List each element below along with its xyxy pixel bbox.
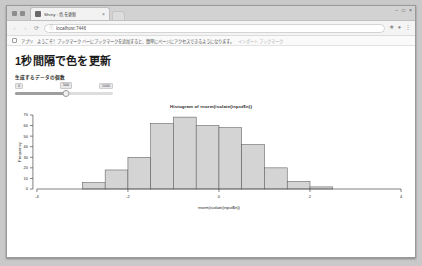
y-tick-label: 0 xyxy=(26,186,29,191)
plot-canvas: -4-2024010203040506070rnorm(isolate(inpu… xyxy=(15,111,407,211)
histogram-bar xyxy=(242,145,265,189)
histogram-bar xyxy=(219,128,242,189)
histogram-bar xyxy=(151,123,174,189)
x-tick-label: 0 xyxy=(218,194,221,199)
page-favicon-icon xyxy=(35,11,41,17)
url-text: localhost:7446 xyxy=(56,26,86,31)
forward-icon[interactable]: › xyxy=(22,25,29,32)
close-window-button[interactable]: × xyxy=(409,8,412,13)
x-tick-label: -4 xyxy=(35,194,39,199)
maximize-button[interactable]: □ xyxy=(402,8,405,13)
slider-value-bubble: 500 xyxy=(60,82,72,89)
x-tick-label: -2 xyxy=(126,194,130,199)
bookmarks-bar: アプリ ようこそ！ブックマーク バーにブックマークを追加すると、簡単にページにア… xyxy=(7,36,415,46)
page-viewport: 1秒間隔で色を更新 生成するデータの個数 0 1000 500 Histogra… xyxy=(7,46,415,257)
plot-title: Histogram of rnorm(isolate(input$n)) xyxy=(15,104,407,109)
y-tick-label: 20 xyxy=(24,165,29,170)
y-axis-title: Frequency xyxy=(17,141,22,162)
address-bar[interactable]: ⓘ localhost:7446 xyxy=(44,24,385,33)
y-tick-label: 50 xyxy=(24,134,29,139)
bookmark-import-link[interactable]: インポート ブックマーク xyxy=(238,38,283,44)
slider-label: 生成するデータの個数 xyxy=(15,74,407,80)
bookmark-apps-label[interactable]: アプリ xyxy=(21,38,33,44)
data-count-slider[interactable]: 0 1000 500 xyxy=(15,83,113,98)
histogram-bar xyxy=(287,182,310,189)
slider-track-wrapper[interactable]: 500 xyxy=(15,89,113,98)
info-icon: ⓘ xyxy=(49,26,53,31)
histogram-plot: Histogram of rnorm(isolate(input$n)) -4-… xyxy=(15,104,407,214)
x-axis-title: rnorm(isolate(input$n)) xyxy=(198,205,241,210)
page-title: 1秒間隔で色を更新 xyxy=(15,52,407,68)
close-icon[interactable]: × xyxy=(102,12,105,17)
new-tab-icon[interactable] xyxy=(112,11,125,20)
browser-tab-active[interactable]: Shiny : 色を更新 × xyxy=(30,7,110,20)
window-controls: − □ × xyxy=(395,8,412,13)
y-tick-label: 70 xyxy=(24,112,29,117)
histogram-bars xyxy=(82,117,332,189)
slider-fill xyxy=(15,92,66,95)
histogram-bar xyxy=(128,157,151,189)
browser-toolbar: ‹ › ⟳ ⓘ localhost:7446 ★ ● ⋮ xyxy=(7,21,415,36)
profile-avatar-icon[interactable]: ● xyxy=(398,25,401,31)
browser-menu-icon[interactable]: ⋮ xyxy=(405,25,411,31)
histogram-bar xyxy=(264,168,287,189)
slider-max-label: 1000 xyxy=(99,83,113,89)
histogram-bar xyxy=(82,183,105,189)
browser-tab-strip: Shiny : 色を更新 × − □ × xyxy=(7,6,415,21)
window-dot-icon xyxy=(20,11,25,16)
y-tick-label: 40 xyxy=(24,144,29,149)
bookmark-folder-icon[interactable] xyxy=(12,38,17,43)
bookmark-welcome-text: ようこそ！ブックマーク バーにブックマークを追加すると、簡単にページにアクセスで… xyxy=(37,38,234,44)
x-tick-label: 2 xyxy=(309,194,311,199)
toolbar-right-group: ★ ● ⋮ xyxy=(389,25,411,31)
slider-handle[interactable] xyxy=(62,90,69,97)
histogram-bar xyxy=(173,117,196,189)
desktop-background: Shiny : 色を更新 × − □ × ‹ › ⟳ ⓘ localhost:7… xyxy=(0,0,422,266)
histogram-bar xyxy=(196,126,219,189)
y-tick-label: 60 xyxy=(24,123,29,128)
window-dot-icon xyxy=(12,11,17,16)
slider-min-label: 0 xyxy=(15,83,23,89)
reload-icon[interactable]: ⟳ xyxy=(33,25,40,32)
bookmark-star-icon[interactable]: ★ xyxy=(389,25,394,31)
browser-window: Shiny : 色を更新 × − □ × ‹ › ⟳ ⓘ localhost:7… xyxy=(6,5,416,258)
y-tick-label: 30 xyxy=(24,155,29,160)
tab-title: Shiny : 色を更新 xyxy=(44,11,76,17)
y-tick-label: 10 xyxy=(24,176,29,181)
minimize-button[interactable]: − xyxy=(395,8,398,13)
window-menu-dots xyxy=(7,11,30,20)
x-tick-label: 4 xyxy=(400,194,403,199)
histogram-bar xyxy=(105,170,128,189)
back-icon[interactable]: ‹ xyxy=(11,25,18,32)
